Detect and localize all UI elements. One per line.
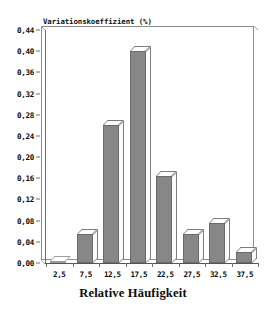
y-tick-label: 0,28	[4, 110, 34, 119]
y-tick-mark	[36, 220, 40, 221]
bar-slot	[99, 30, 126, 263]
y-tick-mark	[36, 263, 40, 264]
y-tick-label: 0,40	[4, 47, 34, 56]
y-tick-mark	[36, 72, 40, 73]
x-tick-label: 17,5	[130, 270, 147, 279]
bar[interactable]	[156, 176, 172, 263]
bar-chart: Variationskoeffizient (%) 0,000,040,080,…	[0, 0, 266, 316]
y-tick-label: 0,44	[4, 26, 34, 35]
x-axis-title: Relative Häufigkeit	[0, 286, 266, 301]
bar-side-face	[199, 229, 204, 263]
x-tick-mark	[46, 263, 47, 267]
y-tick-label: 0,00	[4, 259, 34, 268]
bar-slot	[73, 30, 100, 263]
y-tick-mark	[36, 93, 40, 94]
bar-slot	[126, 30, 153, 263]
bar-slot	[205, 30, 232, 263]
x-tick-mark	[73, 263, 74, 267]
x-tick-label: 7,5	[79, 270, 92, 279]
bar[interactable]	[236, 252, 252, 263]
bar-side-face	[225, 218, 230, 263]
x-tick-mark	[126, 263, 127, 267]
bar-front-face	[183, 234, 199, 263]
x-tick-label: 2,5	[53, 270, 66, 279]
y-tick-mark	[36, 157, 40, 158]
y-tick-label: 0,32	[4, 89, 34, 98]
y-tick-mark	[36, 30, 40, 31]
y-tick-label: 0,12	[4, 195, 34, 204]
y-tick-label: 0,08	[4, 216, 34, 225]
x-tick-label: 32,5	[210, 270, 227, 279]
bar-front-face	[130, 51, 146, 263]
x-tick-mark	[99, 263, 100, 267]
y-tick-label: 0,16	[4, 174, 34, 183]
bar-slot	[232, 30, 259, 263]
bar-side-face	[119, 120, 124, 263]
bar-slot	[152, 30, 179, 263]
bar-side-face	[172, 171, 177, 263]
bar-front-face	[50, 261, 66, 263]
x-tick-label: 27,5	[183, 270, 200, 279]
y-tick-mark	[36, 114, 40, 115]
x-tick-mark	[232, 263, 233, 267]
bar-front-face	[156, 176, 172, 263]
y-tick-mark	[36, 178, 40, 179]
y-tick-label: 0,04	[4, 237, 34, 246]
x-tick-label: 37,5	[236, 270, 253, 279]
bar-side-face	[93, 229, 98, 263]
bar-side-face	[146, 46, 151, 263]
x-tick-mark	[205, 263, 206, 267]
bar[interactable]	[130, 51, 146, 263]
bar[interactable]	[103, 125, 119, 263]
bar[interactable]	[183, 234, 199, 263]
y-axis-title: Variationskoeffizient (%)	[43, 17, 152, 26]
y-tick-label: 0,24	[4, 131, 34, 140]
x-tick-mark	[152, 263, 153, 267]
bar-front-face	[209, 223, 225, 263]
x-tick-label: 12,5	[104, 270, 121, 279]
y-tick-label: 0,36	[4, 68, 34, 77]
x-tick-label: 22,5	[157, 270, 174, 279]
bar[interactable]	[77, 234, 93, 263]
bar-front-face	[103, 125, 119, 263]
bar-front-face	[77, 234, 93, 263]
x-tick-mark	[179, 263, 180, 267]
bar-slot	[179, 30, 206, 263]
x-tick-mark	[258, 263, 259, 267]
plot-area	[46, 30, 258, 263]
y-tick-mark	[36, 241, 40, 242]
y-tick-mark	[36, 51, 40, 52]
bar[interactable]	[50, 261, 66, 263]
bar-slot	[46, 30, 73, 263]
y-tick-mark	[36, 135, 40, 136]
y-tick-label: 0,20	[4, 153, 34, 162]
bar-front-face	[236, 252, 252, 263]
y-tick-mark	[36, 199, 40, 200]
bar[interactable]	[209, 223, 225, 263]
